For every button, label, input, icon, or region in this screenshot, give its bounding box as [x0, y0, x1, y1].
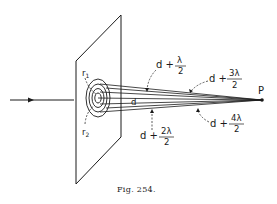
point-p-label: P — [258, 85, 264, 96]
fresnel-zone-diagram: P d r1 r2 d + λ 2 d + 3λ 2 d + 2λ 2 d + … — [0, 0, 277, 204]
svg-text:λ: λ — [177, 55, 182, 65]
svg-text:d +: d + — [209, 73, 227, 84]
svg-text:4λ: 4λ — [231, 113, 241, 123]
incident-ray — [10, 98, 74, 103]
path-label-1: d + λ 2 — [145, 55, 186, 92]
center-distance-label: d — [131, 97, 136, 107]
svg-text:2: 2 — [232, 80, 237, 90]
svg-text:d +: d + — [140, 130, 158, 141]
aperture-screen — [76, 15, 121, 184]
svg-text:3λ: 3λ — [229, 68, 239, 78]
svg-text:2: 2 — [164, 137, 169, 147]
r1-label: r1 — [82, 68, 90, 79]
svg-text:2: 2 — [234, 124, 239, 134]
arrow-head-icon — [28, 98, 34, 103]
svg-text:d +: d + — [156, 59, 174, 70]
path-label-2: d + 2λ 2 — [140, 109, 174, 147]
svg-text:d +: d + — [210, 118, 228, 129]
svg-text:2: 2 — [178, 66, 183, 76]
point-p-marker — [260, 98, 264, 102]
figure-caption: Fig. 254. — [117, 185, 156, 194]
path-label-3: d + 3λ 2 — [189, 68, 242, 93]
svg-text:2λ: 2λ — [161, 126, 171, 136]
path-label-4: d + 4λ 2 — [196, 108, 244, 134]
r2-label: r2 — [82, 127, 90, 138]
